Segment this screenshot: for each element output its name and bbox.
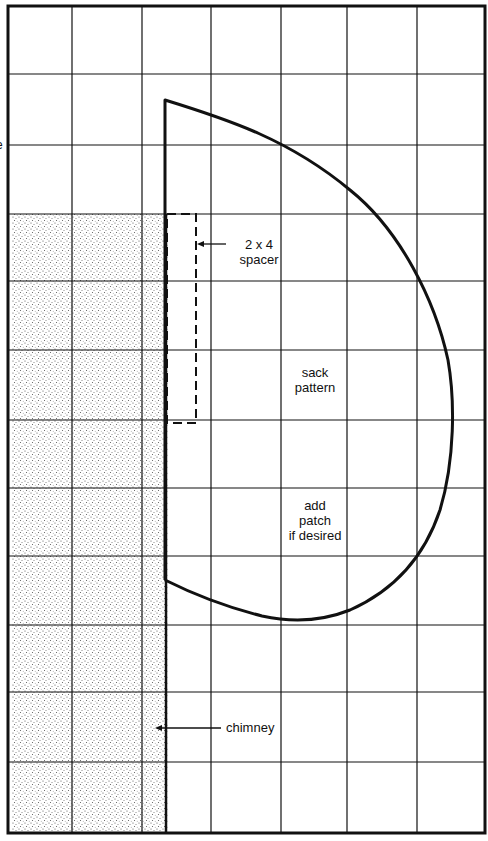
chimney-label: chimney [226, 720, 274, 735]
sack-label-line: sack [282, 365, 348, 380]
pattern-diagram [0, 0, 488, 841]
patch-label-line: patch [276, 513, 354, 528]
edge-letter: e [0, 138, 3, 152]
arrowhead-icon [197, 241, 204, 247]
sack-pattern-label: sack pattern [282, 365, 348, 395]
patch-label-line: if desired [276, 528, 354, 543]
patch-label: add patch if desired [276, 498, 354, 543]
spacer-label: 2 x 4 spacer [229, 237, 289, 267]
patch-label-line: add [276, 498, 354, 513]
chimney-region [12, 214, 168, 833]
sack-label-line: pattern [282, 380, 348, 395]
spacer-label-line: spacer [229, 252, 289, 267]
spacer-outline [167, 214, 196, 423]
spacer-label-line: 2 x 4 [229, 237, 289, 252]
